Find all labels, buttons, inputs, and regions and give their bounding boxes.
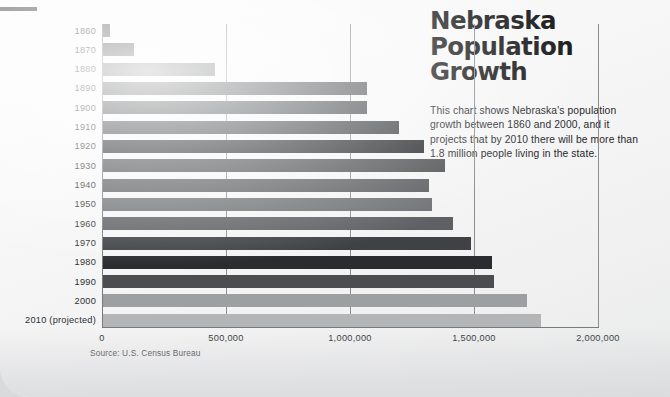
y-tick-label-1890: 1890: [0, 83, 96, 94]
bar-1910[interactable]: [103, 121, 399, 134]
y-tick-label-1910: 1910: [0, 122, 96, 133]
bar-1980[interactable]: [103, 256, 492, 269]
source-note: Source: U.S. Census Bureau: [90, 348, 200, 358]
x-tick-label-500000: 500,000: [208, 333, 243, 343]
bar-1960[interactable]: [103, 217, 453, 230]
x-tick-label-1500000: 1,500,000: [452, 333, 496, 343]
x-tick-label-0: 0: [99, 333, 104, 343]
x-tick-label-1000000: 1,000,000: [328, 333, 372, 343]
y-tick-label-2010: 2010 (projected): [0, 315, 96, 326]
bar-1890[interactable]: [103, 82, 367, 95]
y-tick-label-1870: 1870: [0, 45, 96, 56]
y-tick-label-1930: 1930: [0, 161, 96, 172]
y-tick-label-1950: 1950: [0, 199, 96, 210]
x-axis-line: [102, 327, 599, 328]
bar-1970[interactable]: [103, 237, 471, 250]
bar-2000[interactable]: [103, 294, 527, 307]
gridline-2000000: [598, 24, 599, 327]
y-tick-label-1920: 1920: [0, 141, 96, 152]
bar-1920[interactable]: [103, 140, 424, 153]
bar-1880[interactable]: [103, 63, 215, 76]
bar-1990[interactable]: [103, 275, 494, 288]
y-tick-label-1970: 1970: [0, 238, 96, 249]
bar-1930[interactable]: [103, 159, 445, 172]
bar-1870[interactable]: [103, 43, 134, 56]
bar-1950[interactable]: [103, 198, 432, 211]
y-tick-label-2000: 2000: [0, 296, 96, 307]
bar-1860[interactable]: [103, 24, 110, 37]
chart-page: Nebraska Population Growth This chart sh…: [0, 0, 670, 397]
bar-1900[interactable]: [103, 101, 367, 114]
bar-1940[interactable]: [103, 179, 429, 192]
y-tick-label-1960: 1960: [0, 219, 96, 230]
y-tick-label-1940: 1940: [0, 180, 96, 191]
bar-chart-plot: 1860187018801890190019101920193019401950…: [0, 0, 670, 397]
bar-2010[interactable]: [103, 314, 541, 327]
y-tick-label-1880: 1880: [0, 64, 96, 75]
x-tick-label-2000000: 2,000,000: [576, 333, 620, 343]
y-tick-label-1990: 1990: [0, 277, 96, 288]
y-tick-label-1900: 1900: [0, 103, 96, 114]
y-tick-label-1980: 1980: [0, 257, 96, 268]
y-tick-label-1860: 1860: [0, 26, 96, 37]
